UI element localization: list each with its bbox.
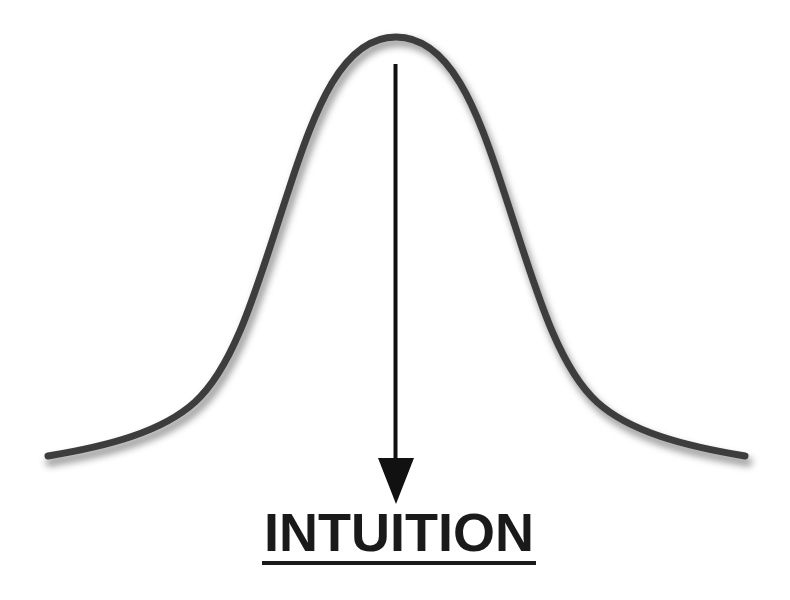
bell-curve-shadow [50,42,748,462]
arrow-down-icon [378,458,414,504]
intuition-label-text: INTUITION [262,505,536,565]
intuition-label: INTUITION [0,503,790,565]
arrow-shaft [394,64,398,464]
